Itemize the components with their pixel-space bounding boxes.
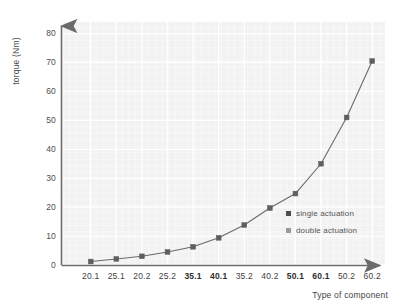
y-tick-label: 10: [32, 232, 56, 241]
legend-swatch-icon: [286, 211, 291, 216]
y-tick-label: 30: [32, 174, 56, 183]
y-tick-label: 0: [32, 261, 56, 270]
y-tick-label: 60: [32, 87, 56, 96]
y-tick-label: 80: [32, 29, 56, 38]
legend-item: double actuation: [286, 223, 386, 237]
y-tick-label: 70: [32, 58, 56, 67]
x-axis-tick-labels: 20.125.120.225.235.140.135.240.250.160.1…: [63, 271, 385, 285]
legend-label: single actuation: [296, 209, 354, 218]
legend-item: single actuation: [286, 206, 386, 220]
y-axis-label: torque (Nm): [11, 16, 21, 106]
legend-swatch-icon: [286, 228, 291, 233]
chart-container: torque (Nm) 01020304050607080 20.125.120…: [0, 0, 396, 306]
chart-legend: single actuation double actuation: [286, 206, 386, 240]
y-tick-label: 50: [32, 116, 56, 125]
y-tick-label: 40: [32, 145, 56, 154]
x-tick-label: 60.2: [352, 271, 392, 281]
y-tick-label: 20: [32, 203, 56, 212]
y-axis-tick-labels: 01020304050607080: [30, 0, 56, 306]
legend-label: double actuation: [296, 226, 357, 235]
x-axis-label: Type of component: [312, 290, 388, 300]
